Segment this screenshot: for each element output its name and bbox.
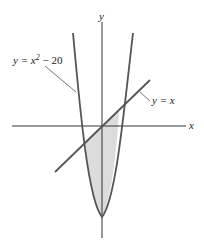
graph-figure: y x y = x2 − 20 y = x (0, 0, 204, 241)
parabola-label-leader (45, 66, 76, 92)
line-label: y = x (151, 94, 175, 106)
parabola-label-lhs: y = x (12, 54, 36, 66)
parabola-label: y = x2 − 20 (12, 53, 63, 66)
y-axis-label: y (98, 10, 104, 22)
x-axis-label: x (188, 119, 194, 131)
parabola-label-rhs: − 20 (40, 54, 63, 66)
line-label-leader (140, 92, 150, 101)
